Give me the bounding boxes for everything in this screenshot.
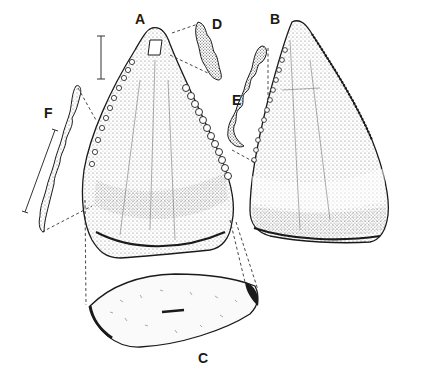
scale-bar-a: [97, 36, 105, 79]
tooth-view-b: [250, 21, 388, 243]
panel-label-b: B: [270, 12, 280, 26]
panel-label-a: A: [135, 12, 145, 26]
panel-label-d: D: [212, 17, 222, 31]
panel-label-f: F: [44, 106, 53, 120]
tooth-illustration-figure: A B C D E F: [0, 0, 424, 372]
cross-section-c: [90, 274, 258, 347]
illustration-drawing: [0, 0, 424, 372]
panel-label-c: C: [198, 351, 208, 365]
panel-label-e: E: [232, 93, 241, 107]
